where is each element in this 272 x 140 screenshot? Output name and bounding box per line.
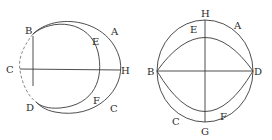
label-C-left: C <box>6 64 14 75</box>
label-D: D <box>254 66 262 77</box>
label-E: E <box>92 36 99 47</box>
label-H: H <box>201 8 210 19</box>
inner-arc <box>33 24 100 108</box>
label-A: A <box>233 20 242 31</box>
label-A: A <box>110 26 119 37</box>
label-E: E <box>190 24 197 35</box>
label-G: G <box>201 126 209 137</box>
label-F: F <box>93 95 100 106</box>
geometry-diagram: B E A C H D F C H A E B D C G F <box>0 0 272 140</box>
dashed-arc <box>20 34 36 102</box>
label-B: B <box>147 66 154 77</box>
label-F: F <box>220 111 227 122</box>
label-C: C <box>172 116 180 127</box>
outer-arc <box>33 21 121 113</box>
horizontal-line <box>20 69 121 70</box>
label-H: H <box>121 65 130 76</box>
label-C-bottom: C <box>110 103 118 114</box>
right-figure: H A E B D C G F <box>147 8 262 137</box>
label-D: D <box>26 102 34 113</box>
label-B: B <box>25 25 32 36</box>
left-figure: B E A C H D F C <box>6 21 130 114</box>
